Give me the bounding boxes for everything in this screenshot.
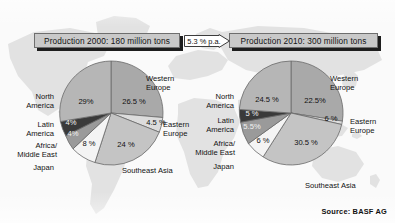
banner-production-2000: Production 2000: 180 million tons (34, 33, 180, 48)
label-left-latin-america: Latin America (4, 120, 54, 139)
value-western-europe: 22.5% (304, 96, 326, 105)
value-southeast-asia: 30.5 % (294, 138, 318, 147)
value-latin-america: 4% (66, 118, 77, 127)
value-africa-middle-east: 5.5% (243, 122, 261, 131)
label-right-southeast-asia: Southeast Asia (305, 181, 381, 190)
label-left-japan: Japan (12, 163, 54, 172)
label-right-eastern-europe: Eastern Europe (350, 117, 394, 136)
label-right-africa-middle-east: Africa/ Middle East (178, 139, 235, 158)
growth-rate-arrow: 5.3 % p.a. (184, 34, 230, 48)
value-japan: 8 % (82, 139, 95, 148)
slice-north-america (239, 61, 291, 113)
pie-chart-2010: 22.5% 6 % 30.5 % 6 % 5.5% 5 % 24.5 % (237, 59, 345, 167)
source-note: Source: BASF AG (321, 207, 387, 216)
label-left-western-europe: Western Europe (146, 74, 192, 93)
value-north-america: 24.5 % (255, 95, 279, 104)
label-right-latin-america: Latin America (184, 116, 234, 135)
label-right-japan: Japan (192, 162, 234, 171)
label-left-north-america: North America (2, 92, 54, 111)
value-eastern-europe: 6 % (324, 114, 337, 123)
growth-rate-label: 5.3 % p.a. (185, 34, 223, 48)
value-latin-america: 5 % (245, 109, 258, 118)
label-left-africa-middle-east: Africa/ Middle East (0, 141, 57, 160)
value-north-america: 29% (78, 97, 93, 106)
slice-north-america (60, 61, 111, 122)
figure-canvas: Production 2000: 180 million tons Produc… (0, 0, 395, 223)
banner-production-2010: Production 2010: 300 million tons (229, 33, 378, 48)
value-africa-middle-east: 4% (68, 129, 79, 138)
value-western-europe: 26.5 % (122, 97, 146, 106)
label-right-western-europe: Western Europe (330, 74, 378, 93)
label-right-north-america: North America (182, 92, 234, 111)
value-japan: 6 % (256, 136, 269, 145)
label-left-southeast-asia: Southeast Asia (122, 166, 194, 175)
value-southeast-asia: 24 % (117, 140, 135, 149)
